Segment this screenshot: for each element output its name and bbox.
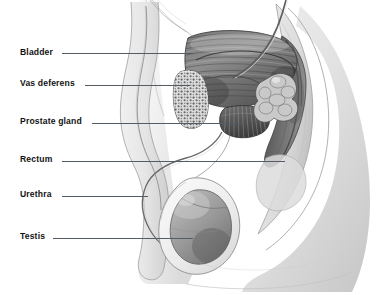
seminal-vesicle-highlight bbox=[272, 77, 280, 83]
pelvic-floor bbox=[256, 155, 306, 211]
anatomy-diagram-root: Bladder Vas deferens Prostate gland Rect… bbox=[0, 0, 385, 295]
label-rectum: Rectum bbox=[20, 155, 52, 164]
leader-line-urethra bbox=[62, 196, 148, 197]
leader-line-prostate-gland bbox=[92, 123, 245, 124]
label-prostate-gland: Prostate gland bbox=[20, 117, 82, 126]
leader-line-vas-deferens bbox=[85, 85, 190, 86]
label-vas-deferens: Vas deferens bbox=[20, 79, 75, 88]
label-urethra: Urethra bbox=[20, 190, 52, 199]
leader-line-rectum bbox=[62, 161, 285, 162]
abdominal-shade-2 bbox=[158, 0, 186, 24]
leader-line-bladder bbox=[62, 53, 193, 54]
label-testis: Testis bbox=[20, 232, 45, 241]
label-bladder: Bladder bbox=[20, 48, 53, 57]
leader-line-testis bbox=[53, 238, 193, 239]
anatomy-illustration bbox=[0, 0, 385, 295]
